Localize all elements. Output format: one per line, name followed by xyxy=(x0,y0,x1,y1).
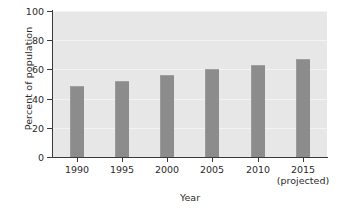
y-tick-label-0: 0 xyxy=(4,152,44,163)
y-tick-mark-60 xyxy=(47,69,52,70)
bar-chart-figure: Percent of population 100 80 60 40 20 0 … xyxy=(0,0,338,212)
bars-layer xyxy=(53,11,327,157)
x-tick-label-1990-text: 1990 xyxy=(65,164,89,175)
x-axis-line xyxy=(52,157,328,158)
x-axis-title: Year xyxy=(53,192,327,203)
x-tick-label-1995-text: 1995 xyxy=(110,164,134,175)
x-tick-label-2015-text: 2015 xyxy=(291,164,315,175)
x-tick-mark-2015 xyxy=(303,158,304,162)
x-tick-label-2000-text: 2000 xyxy=(155,164,179,175)
y-tick-label-80: 80 xyxy=(4,35,44,46)
x-tick-label-2015: 2015 (projected) xyxy=(276,164,330,186)
bar-2000 xyxy=(160,75,174,157)
x-tick-label-2010-text: 2010 xyxy=(246,164,270,175)
y-tick-label-100: 100 xyxy=(4,6,44,17)
y-tick-mark-0 xyxy=(47,157,52,158)
bar-2010 xyxy=(251,65,265,157)
y-tick-label-40: 40 xyxy=(4,94,44,105)
x-tick-mark-1990 xyxy=(77,158,78,162)
bar-2005 xyxy=(205,69,219,157)
y-axis-line xyxy=(52,10,53,158)
y-tick-mark-40 xyxy=(47,99,52,100)
x-tick-mark-2010 xyxy=(258,158,259,162)
y-tick-label-20: 20 xyxy=(4,123,44,134)
bar-1995 xyxy=(115,81,129,157)
x-tick-mark-1995 xyxy=(122,158,123,162)
y-tick-mark-100 xyxy=(47,11,52,12)
bar-2015 xyxy=(296,59,310,157)
x-tick-mark-2005 xyxy=(212,158,213,162)
y-tick-mark-20 xyxy=(47,128,52,129)
x-tick-mark-2000 xyxy=(167,158,168,162)
y-tick-mark-80 xyxy=(47,40,52,41)
y-tick-label-60: 60 xyxy=(4,64,44,75)
x-tick-label-2015-sublabel: (projected) xyxy=(276,175,330,186)
x-tick-label-2005-text: 2005 xyxy=(200,164,224,175)
bar-1990 xyxy=(70,86,84,158)
